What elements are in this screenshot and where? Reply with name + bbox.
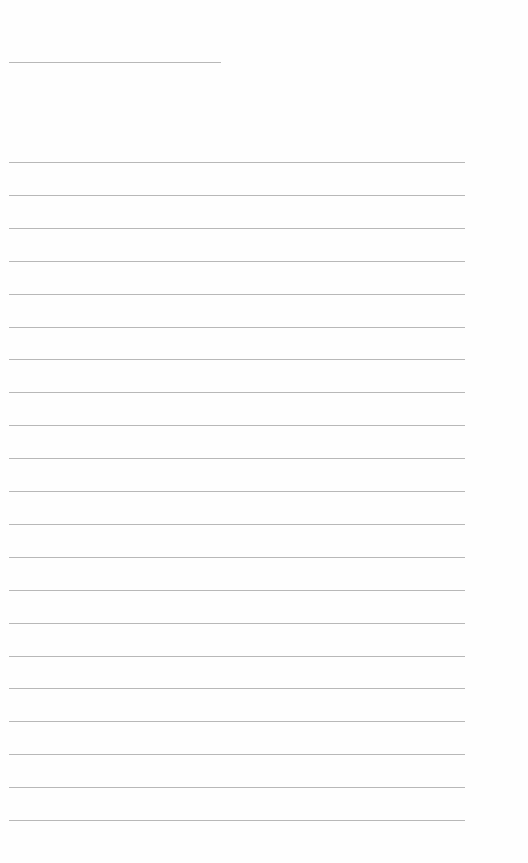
ruled-line	[9, 392, 465, 393]
ruled-line	[9, 557, 465, 558]
ruled-line	[9, 261, 465, 262]
ruled-line	[9, 294, 465, 295]
ruled-line	[9, 491, 465, 492]
ruled-line	[9, 359, 465, 360]
lined-paper-page	[0, 0, 528, 863]
ruled-line	[9, 327, 465, 328]
ruled-line	[9, 688, 465, 689]
ruled-line	[9, 162, 465, 163]
ruled-line	[9, 820, 465, 821]
ruled-line	[9, 754, 465, 755]
title-line	[9, 62, 221, 63]
ruled-line	[9, 195, 465, 196]
ruled-line	[9, 623, 465, 624]
ruled-line	[9, 228, 465, 229]
ruled-line	[9, 524, 465, 525]
ruled-line	[9, 458, 465, 459]
ruled-line	[9, 787, 465, 788]
ruled-line	[9, 590, 465, 591]
ruled-line	[9, 656, 465, 657]
ruled-line	[9, 721, 465, 722]
ruled-line	[9, 425, 465, 426]
